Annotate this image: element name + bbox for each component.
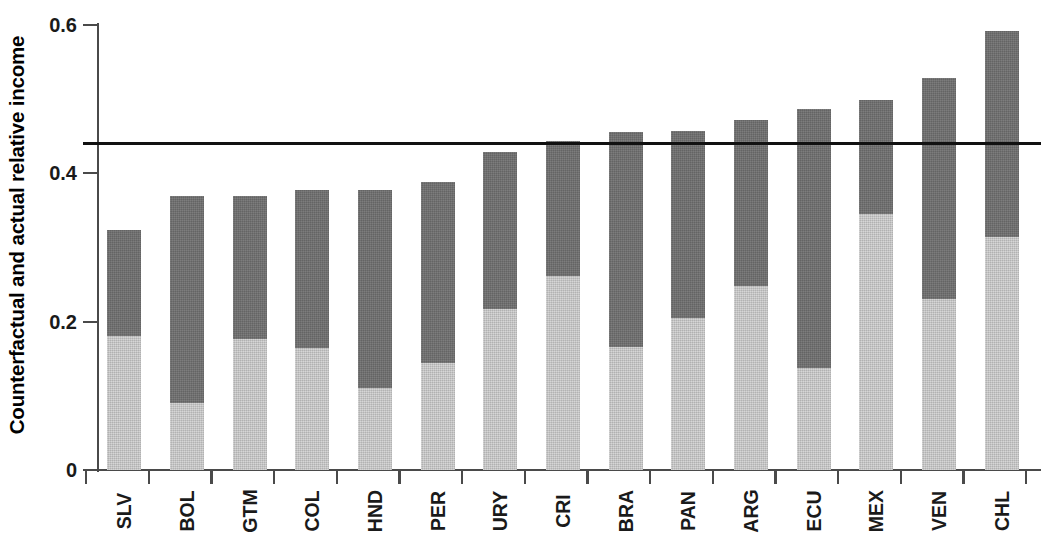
x-axis-label-hnd: HND bbox=[363, 489, 387, 533]
x-axis-tick bbox=[148, 471, 150, 484]
x-axis-label-text: SLV bbox=[113, 493, 136, 529]
bar-ven bbox=[922, 78, 956, 470]
x-axis-label-ecu: ECU bbox=[802, 489, 826, 533]
bar-ecu bbox=[797, 109, 831, 470]
bar-chl bbox=[985, 31, 1019, 470]
x-axis-label-text: BOL bbox=[176, 490, 199, 531]
x-axis-label-text: CRI bbox=[552, 494, 575, 528]
bar-segment-counterfactual bbox=[295, 190, 329, 348]
bar-segment-actual bbox=[170, 403, 204, 470]
bar-segment-counterfactual bbox=[421, 182, 455, 363]
bar-segment-actual bbox=[546, 276, 580, 470]
plot-area bbox=[101, 25, 1041, 470]
x-axis-label-slv: SLV bbox=[112, 489, 136, 533]
x-axis-label-text: COL bbox=[301, 490, 324, 531]
bar-ury bbox=[483, 152, 517, 470]
x-axis-label-bra: BRA bbox=[614, 489, 638, 533]
bar-segment-actual bbox=[233, 339, 267, 470]
y-axis-tick bbox=[83, 172, 97, 174]
x-axis-tick bbox=[774, 471, 776, 484]
bar-segment-actual bbox=[797, 368, 831, 470]
bar-segment-counterfactual bbox=[922, 78, 956, 298]
y-axis-tick-label: 0.2 bbox=[33, 310, 77, 333]
x-axis-label-col: COL bbox=[300, 489, 324, 533]
y-axis-tick-labels: 00.20.40.6 bbox=[33, 0, 77, 533]
y-axis-tick-label: 0 bbox=[33, 459, 77, 482]
y-axis-tick bbox=[83, 321, 97, 323]
bar-segment-counterfactual bbox=[797, 109, 831, 369]
x-axis-tick bbox=[398, 471, 400, 484]
bar-segment-actual bbox=[295, 348, 329, 470]
bar-cri bbox=[546, 141, 580, 470]
x-axis-label-text: ARG bbox=[740, 489, 763, 532]
y-axis-line bbox=[97, 23, 99, 472]
x-axis-label-text: BRA bbox=[614, 490, 637, 532]
bar-segment-counterfactual bbox=[609, 132, 643, 347]
bar-segment-counterfactual bbox=[233, 196, 267, 338]
bar-segment-actual bbox=[859, 214, 893, 470]
bar-arg bbox=[734, 120, 768, 470]
x-axis-label-pan: PAN bbox=[676, 489, 700, 533]
bar-segment-actual bbox=[421, 363, 455, 470]
bar-segment-counterfactual bbox=[107, 230, 141, 335]
reference-line bbox=[83, 142, 1041, 145]
bar-col bbox=[295, 190, 329, 470]
x-axis-label-text: PAN bbox=[677, 491, 700, 531]
bar-segment-actual bbox=[107, 336, 141, 470]
x-axis-label-chl: CHL bbox=[990, 489, 1014, 533]
x-axis-tick bbox=[85, 471, 87, 484]
x-axis-label-text: URY bbox=[489, 491, 512, 531]
x-axis-label-text: HND bbox=[364, 490, 387, 532]
x-axis-tick bbox=[649, 471, 651, 484]
bar-segment-actual bbox=[358, 388, 392, 470]
bar-segment-actual bbox=[734, 286, 768, 470]
bar-bra bbox=[609, 132, 643, 470]
y-axis-tick-label: 0.4 bbox=[33, 162, 77, 185]
bar-bol bbox=[170, 196, 204, 470]
x-axis-label-ury: URY bbox=[488, 489, 512, 533]
bar-pan bbox=[671, 131, 705, 470]
x-axis-label-cri: CRI bbox=[551, 489, 575, 533]
x-axis-label-text: MEX bbox=[865, 490, 888, 532]
x-axis-tick bbox=[461, 471, 463, 484]
bar-per bbox=[421, 182, 455, 470]
y-axis-title-label: Counterfactual and actual relative incom… bbox=[5, 36, 29, 435]
x-axis-label-bol: BOL bbox=[175, 489, 199, 533]
x-axis-label-ven: VEN bbox=[927, 489, 951, 533]
x-axis-tick bbox=[962, 471, 964, 484]
bar-gtm bbox=[233, 196, 267, 470]
x-axis-label-per: PER bbox=[426, 489, 450, 533]
bar-segment-counterfactual bbox=[671, 131, 705, 318]
bar-segment-actual bbox=[671, 318, 705, 470]
x-axis-label-gtm: GTM bbox=[238, 489, 262, 533]
x-axis-tick bbox=[273, 471, 275, 484]
bar-mex bbox=[859, 100, 893, 470]
bar-chart: Counterfactual and actual relative incom… bbox=[0, 0, 1060, 533]
bar-segment-actual bbox=[609, 347, 643, 470]
bar-segment-actual bbox=[483, 309, 517, 470]
x-axis-label-text: GTM bbox=[238, 489, 261, 532]
x-axis-tick bbox=[336, 471, 338, 484]
x-axis-tick bbox=[524, 471, 526, 484]
bar-segment-counterfactual bbox=[859, 100, 893, 214]
bar-segment-counterfactual bbox=[546, 141, 580, 277]
y-axis-tick-label: 0.6 bbox=[33, 14, 77, 37]
bar-segment-counterfactual bbox=[170, 196, 204, 404]
bar-slv bbox=[107, 230, 141, 470]
x-axis-label-text: ECU bbox=[802, 490, 825, 531]
x-axis-label-text: CHL bbox=[990, 491, 1013, 531]
bar-segment-actual bbox=[922, 299, 956, 470]
x-axis-tick bbox=[586, 471, 588, 484]
y-axis-title: Counterfactual and actual relative incom… bbox=[0, 0, 34, 470]
x-axis-label-arg: ARG bbox=[739, 489, 763, 533]
bar-segment-actual bbox=[985, 237, 1019, 470]
x-axis-label-mex: MEX bbox=[864, 489, 888, 533]
x-axis-tick bbox=[1025, 471, 1027, 484]
x-axis-label-text: VEN bbox=[928, 491, 951, 531]
bar-segment-counterfactual bbox=[985, 31, 1019, 237]
x-axis-tick bbox=[210, 471, 212, 484]
x-axis-tick bbox=[837, 471, 839, 484]
x-axis-label-text: PER bbox=[426, 491, 449, 531]
bar-hnd bbox=[358, 190, 392, 470]
x-axis-tick bbox=[900, 471, 902, 484]
